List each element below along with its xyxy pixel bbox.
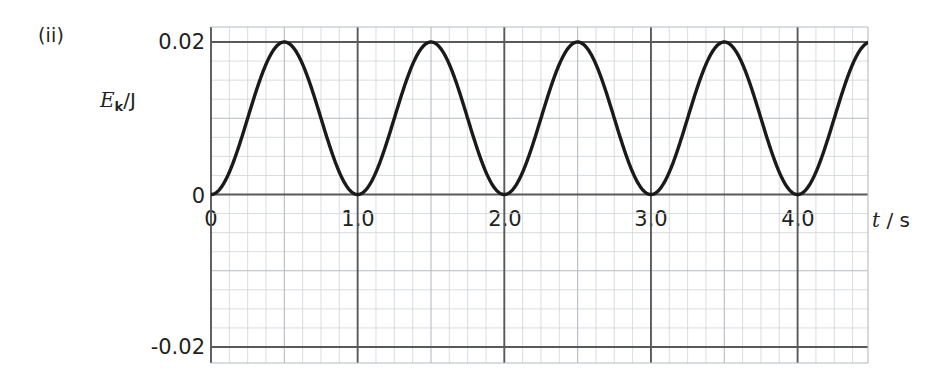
plot-area bbox=[0, 0, 943, 380]
kinetic-energy-graph: (ii) Ek/J 0.02 0 -0.02 0 1.0 2.0 3.0 4.0… bbox=[0, 0, 943, 380]
